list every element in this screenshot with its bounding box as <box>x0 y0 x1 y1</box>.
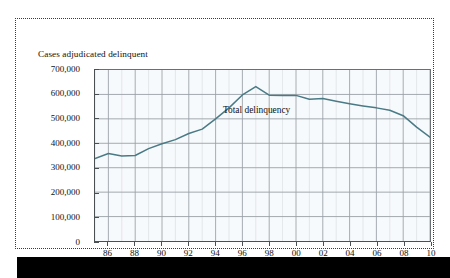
x-tick-mark <box>188 242 189 246</box>
x-tick-mark <box>350 242 351 246</box>
y-tick-mark <box>94 118 99 119</box>
x-tick-mark <box>377 242 378 246</box>
y-tick-mark <box>94 168 99 169</box>
x-tick-mark <box>296 242 297 246</box>
x-tick-mark <box>404 242 405 246</box>
plot-area <box>94 69 431 242</box>
y-tick-label: 400,000 <box>51 139 80 148</box>
y-tick-label: 200,000 <box>51 188 80 197</box>
y-tick-mark <box>94 69 99 70</box>
chart-canvas <box>95 70 430 241</box>
y-tick-label: 300,000 <box>51 163 80 172</box>
page-bottom-band <box>17 257 450 278</box>
y-tick-label: 600,000 <box>51 89 80 98</box>
x-tick-mark <box>215 242 216 246</box>
x-tick-mark <box>134 242 135 246</box>
y-tick-label: 100,000 <box>51 213 80 222</box>
x-tick-mark <box>431 242 432 246</box>
y-tick-label: 700,000 <box>51 65 80 74</box>
x-tick-mark <box>323 242 324 246</box>
x-tick-mark <box>269 242 270 246</box>
figure-frame: Cases adjudicated delinquent 0100,000200… <box>15 18 434 249</box>
y-tick-mark <box>94 143 99 144</box>
x-tick-mark <box>161 242 162 246</box>
y-axis-title: Cases adjudicated delinquent <box>38 49 148 59</box>
series-annotation-label: Total delinquency <box>223 105 290 115</box>
series-line-total-delinquency <box>95 87 430 159</box>
y-tick-mark <box>94 94 99 95</box>
y-tick-label: 500,000 <box>51 114 80 123</box>
y-tick-label: 0 <box>76 238 81 247</box>
x-tick-mark <box>107 242 108 246</box>
y-tick-mark <box>94 217 99 218</box>
vertical-gridlines <box>95 70 430 241</box>
y-axis-ticks: 0100,000200,000300,000400,000500,000600,… <box>30 69 90 242</box>
x-tick-mark <box>242 242 243 246</box>
y-tick-mark <box>94 193 99 194</box>
